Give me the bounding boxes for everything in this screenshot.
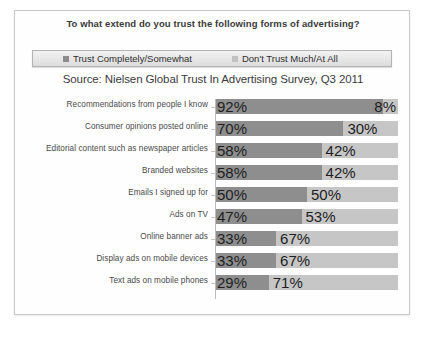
category-label: Editorial content such as newspaper arti… [46, 144, 208, 153]
bar-row: Text ads on mobile phones29%71% [15, 272, 411, 294]
bar-row: Emails I signed up for50%50% [15, 184, 411, 206]
bar-value-trust: 50% [217, 185, 247, 204]
legend-swatch-dont-trust-icon [232, 56, 238, 62]
bar-value-trust: 92% [217, 97, 247, 116]
bar-track: 58%42% [216, 165, 398, 180]
bar-value-dont-trust: 71% [273, 273, 303, 292]
axis-tick [211, 107, 215, 108]
bar-value-dont-trust: 67% [280, 251, 310, 270]
bar-track: 29%71% [216, 275, 398, 290]
axis-tick [211, 239, 215, 240]
bar-value-dont-trust: 53% [306, 207, 336, 226]
bar-value-trust: 47% [217, 207, 247, 226]
bar-row: Ads on TV47%53% [15, 206, 411, 228]
axis-tick [211, 283, 215, 284]
axis-tick [211, 151, 215, 152]
legend-swatch-trust-icon [63, 56, 69, 62]
chart-frame: To what extend do you trust the followin… [14, 10, 410, 315]
chart-source-note: Source: Nielsen Global Trust In Advertis… [15, 73, 411, 85]
legend-label-trust: Trust Completely/Somewhat [73, 53, 192, 64]
axis-tick [211, 129, 215, 130]
category-label: Online banner ads [140, 232, 208, 241]
bar-value-trust: 33% [217, 229, 247, 248]
chart-title: To what extend do you trust the followin… [53, 17, 373, 30]
bar-value-dont-trust: 30% [347, 119, 377, 138]
legend-label-dont-trust: Don't Trust Much/At All [242, 53, 338, 64]
legend-item-dont-trust-much-at-all[interactable]: Don't Trust Much/At All [232, 53, 338, 64]
bar-value-trust: 33% [217, 251, 247, 270]
bar-value-trust: 58% [217, 141, 247, 160]
bar-row: Display ads on mobile devices33%67% [15, 250, 411, 272]
chart-legend: Trust Completely/Somewhat Don't Trust Mu… [32, 50, 392, 67]
bar-value-dont-trust: 8% [374, 97, 396, 116]
bar-track: 33%67% [216, 231, 398, 246]
bar-row: Recommendations from people I know92%8% [15, 96, 411, 118]
bar-value-dont-trust: 42% [326, 163, 356, 182]
bar-value-trust: 70% [217, 119, 247, 138]
category-label: Consumer opinions posted online [85, 122, 208, 131]
bar-row: Editorial content such as newspaper arti… [15, 140, 411, 162]
bar-track: 92%8% [216, 99, 398, 114]
bar-value-dont-trust: 67% [280, 229, 310, 248]
bar-row: Online banner ads33%67% [15, 228, 411, 250]
legend-item-trust-completely-somewhat[interactable]: Trust Completely/Somewhat [63, 53, 192, 64]
category-label: Text ads on mobile phones [109, 276, 208, 285]
bar-value-dont-trust: 50% [311, 185, 341, 204]
category-label: Emails I signed up for [128, 188, 208, 197]
category-label: Recommendations from people I know [67, 100, 208, 109]
bar-track: 33%67% [216, 253, 398, 268]
bar-value-trust: 29% [217, 273, 247, 292]
bar-value-trust: 58% [217, 163, 247, 182]
bar-track: 50%50% [216, 187, 398, 202]
bar-row: Consumer opinions posted online70%30% [15, 118, 411, 140]
bar-track: 70%30% [216, 121, 398, 136]
category-label: Display ads on mobile devices [96, 254, 208, 263]
bar-row: Branded websites58%42% [15, 162, 411, 184]
axis-tick [211, 195, 215, 196]
axis-tick [211, 261, 215, 262]
bar-track: 47%53% [216, 209, 398, 224]
category-label: Ads on TV [169, 210, 208, 219]
axis-tick [211, 217, 215, 218]
category-label: Branded websites [142, 166, 208, 175]
bar-value-dont-trust: 42% [326, 141, 356, 160]
axis-tick [211, 173, 215, 174]
plot-area: Recommendations from people I know92%8%C… [15, 96, 411, 311]
bar-track: 58%42% [216, 143, 398, 158]
